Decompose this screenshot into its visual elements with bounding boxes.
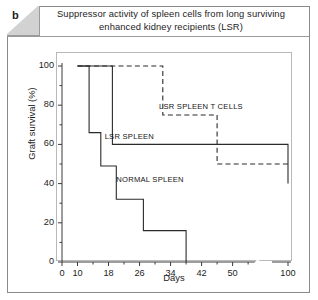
chart-title: Suppressor activity of spleen cells from… (40, 8, 302, 33)
series-label: NORMAL SPLEEN (116, 175, 184, 184)
series-label: LSR SPLEEN (105, 132, 154, 141)
y-axis-label: Graft survival (%) (26, 49, 37, 199)
panel-corner-tag: b (7, 6, 40, 36)
plot-frame (56, 52, 292, 261)
panel-letter: b (12, 10, 19, 21)
figure-panel: b Suppressor activity of spleen cells fr… (0, 0, 318, 300)
title-divider (7, 36, 310, 37)
y-tick-label: 20 (28, 217, 54, 227)
x-axis-label: Days (56, 272, 292, 283)
y-tick-label: 0 (28, 256, 54, 266)
series-label: LSR SPLEEN T CELLS (159, 102, 243, 111)
